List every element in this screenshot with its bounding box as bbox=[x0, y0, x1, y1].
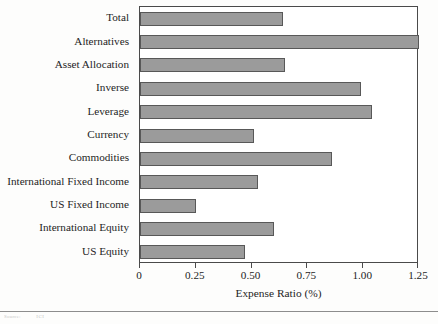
bar bbox=[140, 199, 196, 213]
bar-row bbox=[140, 222, 419, 236]
category-label: US Equity bbox=[82, 245, 129, 258]
x-tick-label: 1.25 bbox=[408, 268, 428, 282]
x-tick-label: 0.75 bbox=[297, 268, 317, 282]
bar bbox=[140, 152, 332, 166]
bar-row bbox=[140, 245, 419, 259]
x-tick-label: 0 bbox=[136, 268, 142, 282]
bar-row bbox=[140, 82, 419, 96]
bar bbox=[140, 245, 245, 259]
bar bbox=[140, 105, 372, 119]
category-label: International Fixed Income bbox=[7, 175, 129, 188]
category-label: US Fixed Income bbox=[50, 198, 129, 211]
bar-row bbox=[140, 199, 419, 213]
bar bbox=[140, 58, 285, 72]
x-axis-title: Expense Ratio (%) bbox=[139, 287, 418, 299]
x-tick-label: 0.25 bbox=[185, 268, 205, 282]
source-note: Source: ICI bbox=[4, 314, 45, 319]
x-tick-label: 1.00 bbox=[352, 268, 372, 282]
category-label: Asset Allocation bbox=[55, 58, 129, 71]
x-axis-tick-labels: 00.250.500.751.001.25 bbox=[0, 268, 438, 284]
bar-row bbox=[140, 152, 419, 166]
category-label: Total bbox=[106, 11, 129, 24]
bar-row bbox=[140, 58, 419, 72]
bar-row bbox=[140, 175, 419, 189]
bar bbox=[140, 82, 361, 96]
category-label: Currency bbox=[87, 128, 129, 141]
bar bbox=[140, 129, 254, 143]
bar-row bbox=[140, 129, 419, 143]
plot-area bbox=[139, 6, 418, 263]
bar-row bbox=[140, 12, 419, 26]
bars-layer bbox=[140, 7, 417, 262]
category-label: Leverage bbox=[87, 105, 129, 118]
category-label: Inverse bbox=[96, 81, 129, 94]
bar bbox=[140, 222, 274, 236]
bar-row bbox=[140, 105, 419, 119]
bar-chart-figure: TotalAlternativesAsset AllocationInverse… bbox=[0, 0, 438, 324]
source-label: Source: bbox=[4, 314, 21, 319]
bar bbox=[140, 12, 283, 26]
bar-row bbox=[140, 35, 419, 49]
bar bbox=[140, 35, 419, 49]
source-value: ICI bbox=[36, 314, 44, 319]
category-axis-labels: TotalAlternativesAsset AllocationInverse… bbox=[0, 6, 135, 263]
bar bbox=[140, 175, 258, 189]
category-label: Alternatives bbox=[74, 35, 129, 48]
category-label: Commodities bbox=[69, 151, 129, 164]
x-tick-label: 0.50 bbox=[241, 268, 261, 282]
category-label: International Equity bbox=[39, 221, 129, 234]
footer-divider bbox=[0, 311, 438, 312]
